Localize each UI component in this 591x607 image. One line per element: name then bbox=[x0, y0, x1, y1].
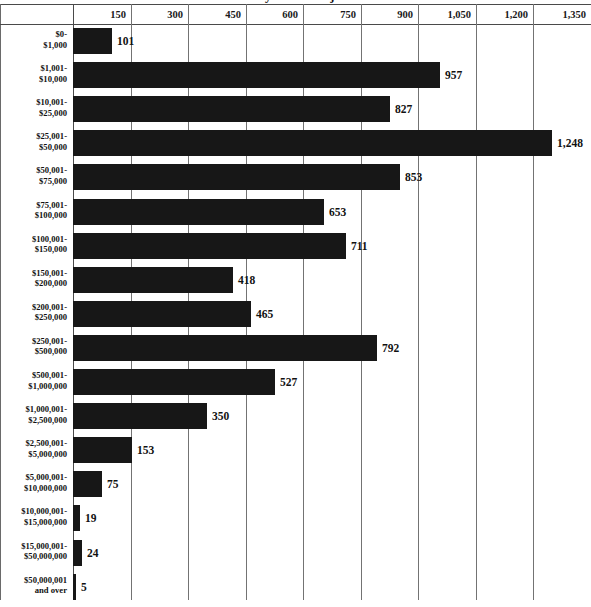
bar bbox=[73, 540, 82, 566]
bar-row: 24 bbox=[73, 540, 591, 566]
category-label-line1: $250,001- bbox=[0, 336, 67, 347]
bar-row: 853 bbox=[73, 164, 591, 190]
bar-value-label: 153 bbox=[132, 437, 154, 463]
bar-value-label: 653 bbox=[324, 199, 346, 225]
bar-chart: Number of Returns by Size of Adjusted Gr… bbox=[0, 0, 591, 607]
category-label: $25,001-$50,000 bbox=[0, 131, 67, 152]
category-label-line1: $150,001- bbox=[0, 268, 67, 279]
bar-value-label: 465 bbox=[251, 301, 273, 327]
category-label-line1: $50,000,001 bbox=[0, 575, 67, 586]
tick-label: 150 bbox=[73, 5, 131, 24]
category-label-line1: $75,001- bbox=[0, 200, 67, 211]
category-label-line1: $100,001- bbox=[0, 234, 67, 245]
bar bbox=[73, 130, 552, 156]
bar bbox=[73, 164, 400, 190]
bar-value-label: 350 bbox=[207, 403, 229, 429]
category-label: $2,500,001-$5,000,000 bbox=[0, 438, 67, 459]
bar bbox=[73, 96, 390, 122]
category-label: $5,000,001-$10,000,000 bbox=[0, 472, 67, 493]
bar bbox=[73, 233, 346, 259]
bar bbox=[73, 62, 440, 88]
tick-label: 1,350 bbox=[533, 5, 591, 24]
bar bbox=[73, 199, 324, 225]
category-label: $10,000,001-$15,000,000 bbox=[0, 506, 67, 527]
bar-value-label: 101 bbox=[112, 28, 134, 54]
bar bbox=[73, 403, 207, 429]
category-label-column: $0-$1,000$1,001-$10,000$10,001-$25,000$2… bbox=[0, 25, 72, 607]
category-label: $0-$1,000 bbox=[0, 29, 67, 50]
bar-value-label: 75 bbox=[102, 471, 119, 497]
category-label-line2: and over bbox=[0, 585, 67, 596]
category-label-line1: $1,001- bbox=[0, 63, 67, 74]
category-label: $1,001-$10,000 bbox=[0, 63, 67, 84]
bar-value-label: 418 bbox=[233, 267, 255, 293]
bar-value-label: 5 bbox=[76, 574, 87, 600]
bar-value-label: 527 bbox=[275, 369, 297, 395]
category-label-line1: $0- bbox=[0, 29, 67, 40]
bar-row: 19 bbox=[73, 505, 591, 531]
tick-label: 600 bbox=[246, 5, 303, 24]
category-label-line2: $2,500,000 bbox=[0, 415, 67, 426]
category-label-line1: $25,001- bbox=[0, 131, 67, 142]
category-label-line1: $1,000,001- bbox=[0, 404, 67, 415]
category-label-line1: $2,500,001- bbox=[0, 438, 67, 449]
bar-row: 711 bbox=[73, 233, 591, 259]
tick-label: 450 bbox=[188, 5, 246, 24]
bar-value-label: 827 bbox=[390, 96, 412, 122]
category-label: $75,001-$100,000 bbox=[0, 200, 67, 221]
bar-row: 101 bbox=[73, 28, 591, 54]
category-label-line2: $1,000,000 bbox=[0, 381, 67, 392]
tick-label: 1,050 bbox=[418, 5, 476, 24]
category-label-line2: $500,000 bbox=[0, 346, 67, 357]
bar bbox=[73, 369, 275, 395]
bar-value-label: 19 bbox=[80, 505, 97, 531]
category-label-line2: $10,000,000 bbox=[0, 483, 67, 494]
category-label-line2: $1,000 bbox=[0, 40, 67, 51]
chart-title: Number of Returns by Size of Adjusted Gr… bbox=[0, 0, 591, 3]
tick-label: 900 bbox=[361, 5, 418, 24]
bar-row: 653 bbox=[73, 199, 591, 225]
category-label-line2: $50,000,000 bbox=[0, 551, 67, 562]
category-label-line1: $200,001- bbox=[0, 302, 67, 313]
bar-value-label: 957 bbox=[440, 62, 462, 88]
bar-row: 153 bbox=[73, 437, 591, 463]
bar-row: 418 bbox=[73, 267, 591, 293]
category-label-line2: $150,000 bbox=[0, 244, 67, 255]
bar-value-label: 853 bbox=[400, 164, 422, 190]
category-label-line1: $5,000,001- bbox=[0, 472, 67, 483]
tick-label: 750 bbox=[303, 5, 361, 24]
category-label-line2: $15,000,000 bbox=[0, 517, 67, 528]
category-label: $200,001-$250,000 bbox=[0, 302, 67, 323]
category-label-line1: $10,000,001- bbox=[0, 506, 67, 517]
category-label: $15,000,001-$50,000,000 bbox=[0, 541, 67, 562]
category-label: $100,001-$150,000 bbox=[0, 234, 67, 255]
category-label-line2: $100,000 bbox=[0, 210, 67, 221]
bar-row: 5 bbox=[73, 574, 591, 600]
category-label: $50,001-$75,000 bbox=[0, 165, 67, 186]
category-label-line1: $50,001- bbox=[0, 165, 67, 176]
bar-row: 465 bbox=[73, 301, 591, 327]
category-label: $1,000,001-$2,500,000 bbox=[0, 404, 67, 425]
category-label-line2: $10,000 bbox=[0, 74, 67, 85]
category-label-line2: $50,000 bbox=[0, 142, 67, 153]
bar-row: 527 bbox=[73, 369, 591, 395]
category-label-line1: $15,000,001- bbox=[0, 541, 67, 552]
category-label-line2: $25,000 bbox=[0, 108, 67, 119]
bar bbox=[73, 28, 112, 54]
bar-row: 1,248 bbox=[73, 130, 591, 156]
bar bbox=[73, 505, 80, 531]
bar-value-label: 792 bbox=[377, 335, 399, 361]
tick-label: 300 bbox=[131, 5, 188, 24]
category-label-line2: $5,000,000 bbox=[0, 449, 67, 460]
category-label: $150,001-$200,000 bbox=[0, 268, 67, 289]
bar-value-label: 1,248 bbox=[552, 130, 583, 156]
category-label-line1: $500,001- bbox=[0, 370, 67, 381]
bar-value-label: 711 bbox=[346, 233, 368, 259]
category-label: $50,000,001and over bbox=[0, 575, 67, 596]
category-label-line2: $200,000 bbox=[0, 278, 67, 289]
bar-row: 957 bbox=[73, 62, 591, 88]
category-label-line2: $75,000 bbox=[0, 176, 67, 187]
bar-row: 350 bbox=[73, 403, 591, 429]
category-label-line1: $10,001- bbox=[0, 97, 67, 108]
plot-area: 1019578271,24885365371141846579252735015… bbox=[73, 25, 591, 607]
